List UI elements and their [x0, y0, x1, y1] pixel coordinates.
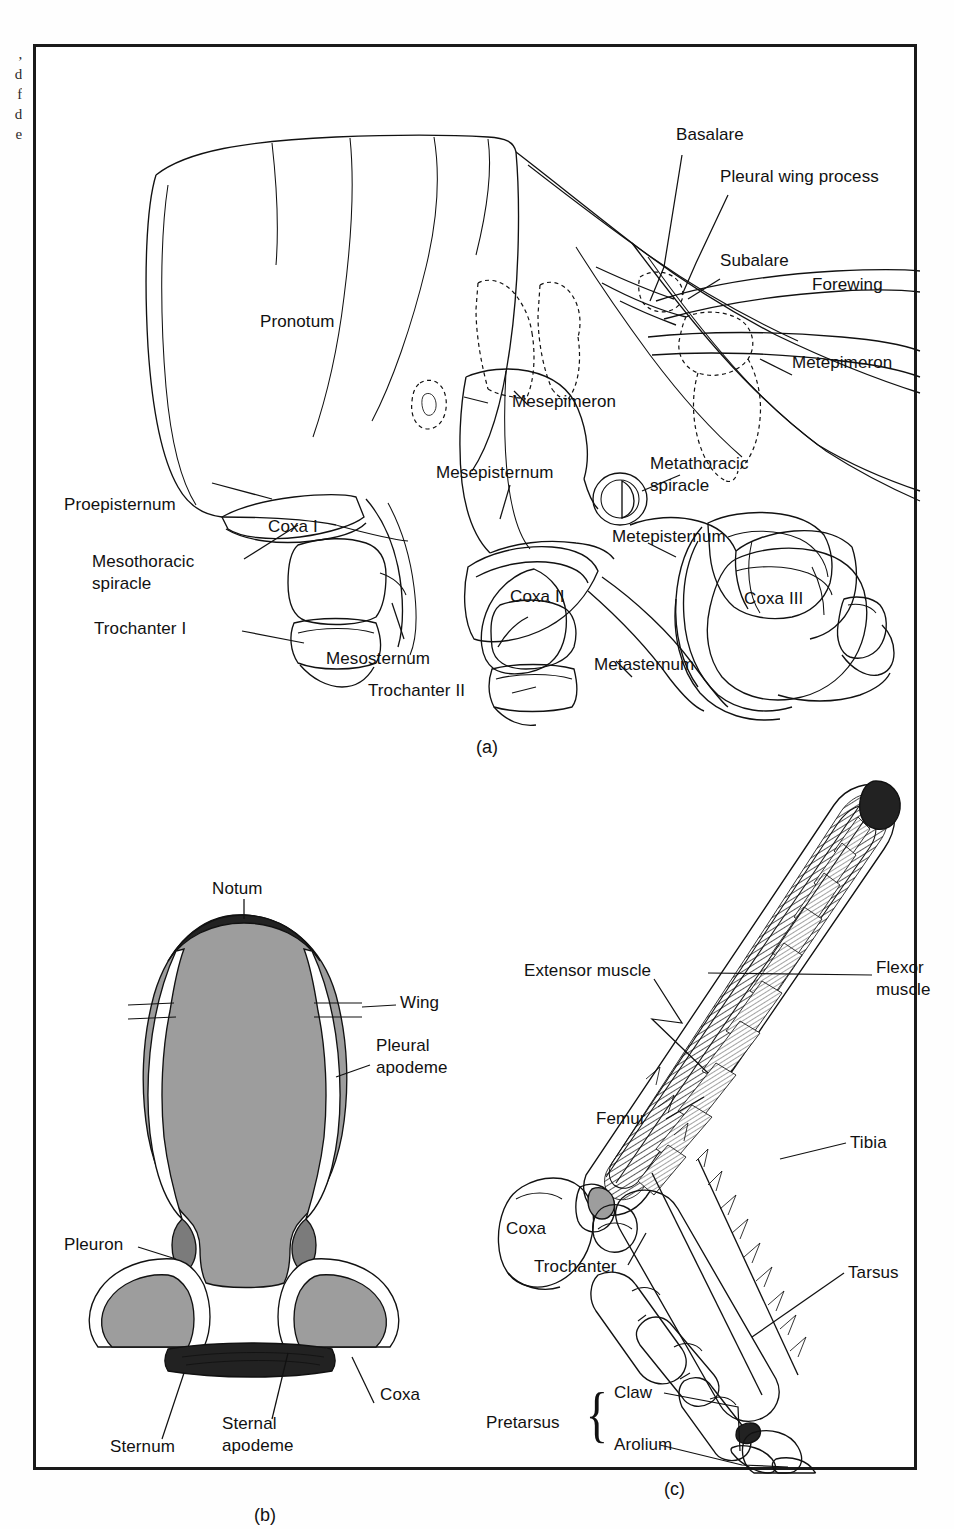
- label-mesosternum: Mesosternum: [326, 649, 430, 669]
- label-metathoracic-spiracle: Metathoracic spiracle: [650, 453, 749, 497]
- label-wing: Wing: [400, 993, 439, 1013]
- pretarsus-brace: {: [586, 1383, 608, 1445]
- label-forewing: Forewing: [812, 275, 883, 295]
- label-mesothoracic-spiracle: Mesothoracic spiracle: [92, 551, 194, 595]
- leader-basalare: [650, 155, 682, 301]
- panel-b-letter: (b): [254, 1505, 276, 1526]
- label-metasternum: Metasternum: [594, 655, 694, 675]
- label-tibia: Tibia: [850, 1133, 887, 1153]
- label-pleural-wing-process: Pleural wing process: [720, 167, 879, 187]
- label-coxa-c: Coxa: [506, 1219, 546, 1239]
- label-coxa-i: Coxa I: [268, 517, 318, 537]
- panel-b-drawing: [36, 827, 456, 1347]
- label-basalare: Basalare: [676, 125, 744, 145]
- label-pretarsus: Pretarsus: [486, 1413, 560, 1433]
- label-coxa-iii: Coxa III: [744, 589, 803, 609]
- leader-pleural-wing-process: [682, 195, 728, 295]
- label-metepimeron: Metepimeron: [792, 353, 892, 373]
- caption-fragment: , d f d e: [0, 44, 22, 144]
- panel-b: Notum Wing Pleural apodeme Pleuron: [36, 827, 456, 1347]
- label-trochanter-ii: Trochanter II: [368, 681, 465, 701]
- leader-sternum: [162, 1373, 184, 1439]
- leader-metepimeron: [760, 359, 792, 375]
- label-sternum: Sternum: [110, 1437, 175, 1457]
- leader-pleuron: [138, 1247, 176, 1259]
- label-mesepimeron: Mesepimeron: [512, 392, 616, 412]
- label-pleuron: Pleuron: [64, 1235, 123, 1255]
- leader-trochanter-i: [242, 631, 304, 643]
- panel-a-letter: (a): [476, 737, 498, 758]
- leader-mesepisternum: [500, 485, 510, 519]
- tibia-spines: [696, 1149, 806, 1357]
- label-flexor-muscle: Flexor muscle: [876, 957, 930, 1001]
- leader-tibia: [780, 1143, 846, 1159]
- label-tarsus: Tarsus: [848, 1263, 899, 1283]
- leader-proepisternum: [212, 483, 272, 499]
- label-pleural-apodeme: Pleural apodeme: [376, 1035, 448, 1079]
- label-metepisternum: Metepisternum: [612, 527, 726, 547]
- panel-c-letter: (c): [664, 1479, 685, 1500]
- figure-frame: Basalare Pleural wing process Subalare F…: [33, 44, 917, 1470]
- label-extensor-muscle: Extensor muscle: [524, 961, 651, 981]
- leader-claw: [664, 1393, 740, 1451]
- label-mesepisternum: Mesepisternum: [436, 463, 554, 483]
- panel-c: Extensor muscle Flexor muscle Tibia Femu…: [446, 767, 920, 1473]
- panel-c-drawing: [446, 767, 920, 1473]
- label-claw: Claw: [614, 1383, 652, 1403]
- panel-a: Basalare Pleural wing process Subalare F…: [36, 47, 920, 727]
- label-subalare: Subalare: [720, 251, 789, 271]
- label-notum: Notum: [212, 879, 263, 899]
- label-pronotum: Pronotum: [260, 312, 335, 332]
- panel-b-lower: Sternum Sternal apodeme Coxa (b): [36, 1327, 456, 1529]
- label-coxa-ii: Coxa II: [510, 587, 565, 607]
- leader-trochanter-ii: [512, 687, 536, 693]
- label-coxa-b: Coxa: [380, 1385, 420, 1405]
- label-trochanter: Trochanter: [534, 1257, 617, 1277]
- label-arolium: Arolium: [614, 1435, 672, 1455]
- extensor-muscle-fibers: [638, 817, 870, 1195]
- label-trochanter-i: Trochanter I: [94, 619, 186, 639]
- leader-subalare: [688, 279, 720, 299]
- label-femur: Femur: [596, 1109, 646, 1129]
- leader-wing: [362, 1005, 396, 1007]
- label-proepisternum: Proepisternum: [64, 495, 176, 515]
- leader-coxa-b: [352, 1357, 374, 1403]
- label-sternal-apodeme: Sternal apodeme: [222, 1413, 294, 1457]
